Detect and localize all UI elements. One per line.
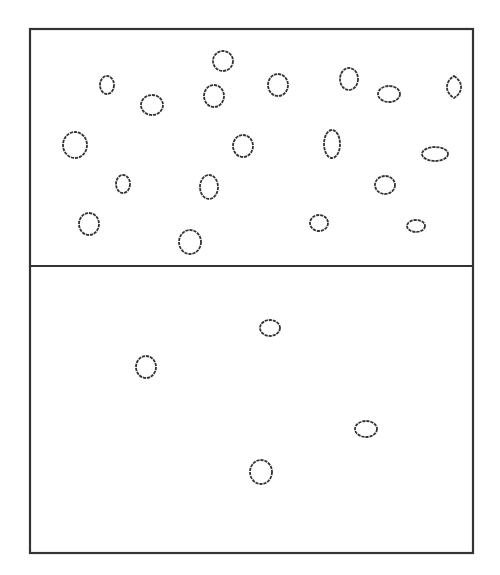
particle-icon: [79, 213, 99, 235]
particle-icon: [310, 215, 328, 231]
particle-icon: [422, 147, 448, 161]
upper-compartment: [63, 51, 461, 254]
particle-icon: [179, 230, 201, 254]
particle-icon: [233, 135, 253, 157]
lower-compartment: [136, 320, 377, 484]
particle-icon: [116, 175, 130, 193]
particle-icon: [260, 320, 280, 336]
particle-icon: [447, 76, 461, 98]
particle-icon: [340, 68, 358, 90]
particle-icon: [355, 421, 377, 437]
particle-icon: [407, 220, 425, 232]
particle-icon: [204, 85, 224, 107]
particle-icon: [375, 176, 395, 194]
particle-icon: [324, 130, 340, 158]
two-compartment-diagram: [0, 0, 500, 575]
particle-icon: [378, 86, 400, 102]
particle-icon: [136, 356, 156, 378]
particle-icon: [268, 74, 288, 96]
particle-icon: [63, 132, 87, 158]
particle-icon: [141, 95, 163, 115]
particle-icon: [200, 175, 218, 199]
container-frame: [30, 29, 473, 553]
particle-icon: [250, 460, 272, 484]
particle-icon: [213, 51, 233, 71]
particle-icon: [100, 76, 114, 94]
